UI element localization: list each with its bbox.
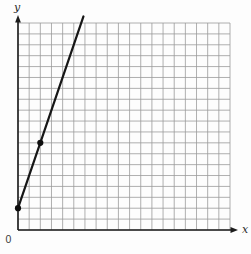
- axes: [15, 15, 238, 233]
- line-graph-figure: y x 0: [0, 0, 251, 254]
- line-graph: y x 0: [0, 0, 251, 254]
- x-axis-label: x: [242, 223, 249, 236]
- origin-label: 0: [6, 233, 12, 245]
- y-axis-label: y: [13, 1, 21, 14]
- grid: [18, 23, 230, 230]
